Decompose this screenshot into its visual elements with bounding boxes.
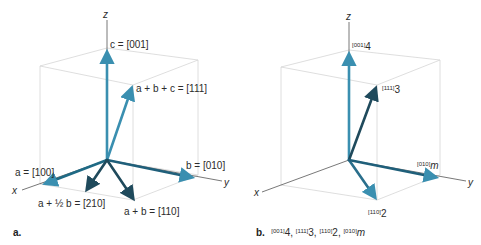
- vector-a-b-c: [107, 90, 131, 160]
- vectors: [47, 54, 190, 197]
- x-axis: [262, 160, 349, 192]
- label-a-100: a = [100]: [15, 167, 54, 178]
- vector-b: [107, 160, 190, 177]
- label-a-half-b-210: a + ½ b = [210]: [38, 198, 105, 209]
- label-111-3: [111]3: [382, 84, 400, 95]
- label-010-m: [010]m: [417, 160, 439, 171]
- label-a-b-c-111: a + b + c = [111]: [136, 83, 207, 94]
- panel-a: z x y c = [001] a + b + c = [111] a = [1…: [11, 9, 230, 238]
- label-a-b-110: a + b = [110]: [124, 206, 180, 217]
- y-axis-label: y: [467, 177, 474, 188]
- crystal-direction-diagram: z x y c = [001] a + b + c = [111] a = [1…: [0, 0, 481, 245]
- x-axis-label: x: [11, 185, 18, 196]
- panel-b: z x y [001]4 [111]3 [110]2 [010]m b. [00…: [253, 11, 474, 239]
- panel-a-label: a.: [13, 227, 22, 238]
- z-axis-label: z: [102, 9, 108, 20]
- vectors: [349, 56, 434, 196]
- y-axis-label: y: [223, 177, 230, 188]
- z-axis-label: z: [345, 11, 351, 22]
- label-110-2: [110]2: [368, 208, 387, 219]
- panel-b-caption: b. [001]4, [111]3, [110]2, [010]m: [256, 222, 365, 239]
- label-b-010: b = [010]: [186, 160, 225, 171]
- x-axis-label: x: [253, 187, 260, 198]
- vector-111-3: [349, 90, 375, 160]
- label-c-001: c = [001]: [110, 39, 149, 50]
